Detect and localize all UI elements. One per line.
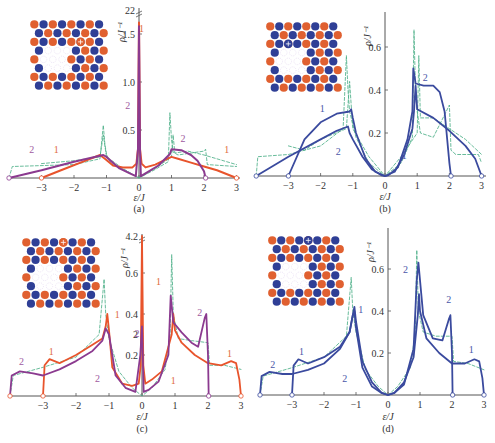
curve-label: 1 [156,276,161,287]
band-edge-marker [203,176,207,180]
panel-caption: (a) [133,203,144,215]
y-tick-label: 0.6 [126,268,139,279]
curve-label: 2 [342,373,347,384]
band-edge-marker [254,174,258,178]
curve-label: 2 [197,307,202,318]
x-tick-label: −1 [101,182,112,193]
x-axis-title: ε/J [379,191,391,202]
x-axis-title: ε/J [136,411,148,422]
x-tick-label: −1 [104,400,115,411]
lattice-inset [30,20,108,89]
x-tick-label: 1 [173,400,178,411]
panel-d: −3−2−101230.20.40.6ρ/J⁻¹ε/J(d)1212221 [258,228,487,435]
curve-label: 2 [270,359,275,370]
band-edge-marker [479,174,483,178]
y-tick-label: 0.2 [372,348,385,359]
y-tick-label: 1.0 [123,77,136,88]
band-edge-marker [7,176,11,180]
y-axis-title: ρ/J⁻¹ [365,242,376,263]
x-tick-label: −2 [315,180,326,191]
dos-figure: 22−3−2−101230.51.01.5ρ/J⁻¹ε/J(a)122121 −… [0,0,495,443]
x-tick-label: 1 [169,182,174,193]
curve-label: 1 [49,346,54,357]
y-tick-label: 0.4 [369,85,382,96]
curve-label: 1 [320,103,325,114]
curve-label: 2 [446,294,451,305]
panel-caption: (c) [136,423,147,435]
curve-label: 2 [125,100,130,111]
band-edge-marker [39,176,43,180]
band-edge-marker [41,394,45,398]
lattice-inset [268,236,344,306]
curve-label: 2 [423,72,428,83]
x-tick-label: −2 [69,182,80,193]
y-tick-label: 0.5 [123,125,136,136]
marked-site-icon [59,238,68,247]
x-tick-label: 2 [450,399,455,410]
y-axis-title: ρ/J⁻¹ [116,22,127,43]
band-edge-marker [8,394,12,398]
y-axis-title: ρ/J⁻¹ [362,26,373,47]
x-tick-label: 3 [239,400,244,411]
marked-site-icon [284,40,293,49]
axis-break-label: 22 [125,5,135,16]
y-tick-label: 0.2 [126,350,139,361]
x-tick-label: 1 [418,399,423,410]
band-edge-marker [449,174,453,178]
x-tick-label: −2 [71,400,82,411]
x-tick-label: −3 [36,182,47,193]
series-2 [10,296,209,396]
x-axis-title: ε/J [133,192,145,203]
curve-label: 1 [469,344,474,355]
marked-site-icon [76,38,85,47]
x-tick-label: −3 [38,400,49,411]
x-tick-label: −3 [283,180,294,191]
curve-label: 1 [227,348,232,359]
y-tick-label: 0.6 [372,264,385,275]
curve-label: 2 [19,356,24,367]
y-tick-label: 0.4 [372,306,385,317]
y-axis-title: ρ/J⁻¹ [119,248,130,269]
x-tick-label: 0 [386,399,391,410]
marked-site-icon [304,236,313,245]
x-tick-label: −1 [351,399,362,410]
curve-label: 1 [358,304,363,315]
x-tick-label: 1 [415,180,420,191]
curve-label: 1 [171,375,176,386]
band-edge-marker [206,394,210,398]
band-edge-marker [258,393,262,397]
band-edge-marker [286,174,290,178]
x-tick-label: 2 [206,400,211,411]
band-edge-marker [290,393,294,397]
curve-label: 1 [402,150,407,161]
curve-label: 1 [54,144,59,155]
band-edge-marker [234,176,238,180]
x-tick-label: −3 [287,399,298,410]
curve-label: 1 [224,144,229,155]
axis-break-label: 4.2 [126,231,139,242]
y-tick-label: 0.4 [126,309,139,320]
panel-caption: (b) [379,203,391,215]
curve-label: 2 [29,144,34,155]
panel-caption: (d) [382,423,394,435]
curve-label: 2 [95,373,100,384]
panel-a: 22−3−2−101230.51.01.5ρ/J⁻¹ε/J(a)122121 [7,5,240,215]
curve-label: 1 [115,309,120,320]
panel-b: −3−2−101230.20.40.6ρ/J⁻¹ε/J(b)1221 [254,12,486,215]
curve-label: 2 [336,146,341,157]
curve-label: 1 [139,23,144,34]
y-tick-label: 0.2 [369,128,382,139]
panel-c: 4.2−3−2−101230.20.40.62ρ/J⁻¹ε/J(c)121122… [8,231,244,435]
x-tick-label: 3 [482,399,487,410]
x-tick-label: 2 [202,182,207,193]
band-edge-marker [450,393,454,397]
x-tick-label: 3 [234,182,239,193]
x-axis-title: ε/J [382,411,394,422]
x-tick-label: 0 [140,400,145,411]
x-tick-label: 2 [447,180,452,191]
band-edge-marker [482,393,486,397]
x-tick-label: 0 [383,180,388,191]
curve-label: 2 [135,328,140,339]
band-edge-marker [239,394,243,398]
x-tick-label: −1 [347,180,358,191]
